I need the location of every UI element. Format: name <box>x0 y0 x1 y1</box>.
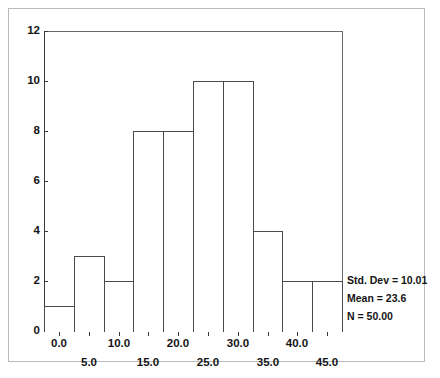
x-axis-tick <box>327 332 328 336</box>
y-axis-tick <box>44 131 48 132</box>
x-axis-tick <box>268 332 269 336</box>
mean-text: Mean = 23.6 <box>347 289 433 307</box>
x-axis-label: 5.0 <box>71 357 107 369</box>
histogram-bar <box>223 81 254 332</box>
y-axis-tick <box>44 231 48 232</box>
n-text: N = 50.00 <box>347 307 433 325</box>
axis-top-line <box>44 31 343 32</box>
histogram-bar <box>74 256 105 332</box>
histogram-bar <box>282 281 313 332</box>
y-axis-tick <box>44 31 48 32</box>
x-axis-label: 0.0 <box>41 338 77 350</box>
histogram-bar <box>44 306 75 332</box>
std-dev-text: Std. Dev = 10.01 <box>347 271 433 289</box>
x-axis-label: 20.0 <box>160 338 196 350</box>
histogram-chart: 024681012 0.010.020.030.040.05.015.025.0… <box>9 9 424 361</box>
x-axis-label: 35.0 <box>250 357 286 369</box>
histogram-bar <box>133 131 164 332</box>
x-axis-tick <box>119 332 120 336</box>
x-axis-tick <box>59 332 60 336</box>
x-axis-label: 30.0 <box>220 338 256 350</box>
figure-frame: 024681012 0.010.020.030.040.05.015.025.0… <box>8 8 425 362</box>
histogram-bar <box>312 281 343 332</box>
x-axis-label: 40.0 <box>279 338 315 350</box>
y-axis-tick <box>44 81 48 82</box>
y-axis-label: 12 <box>15 25 40 37</box>
x-axis-tick <box>148 332 149 336</box>
x-axis-label: 15.0 <box>130 357 166 369</box>
histogram-bar <box>104 281 134 332</box>
y-axis-label: 10 <box>15 75 40 87</box>
y-axis-label: 6 <box>15 175 40 187</box>
y-axis-label: 4 <box>15 225 40 237</box>
x-axis-tick <box>238 332 239 336</box>
x-axis-tick <box>297 332 298 336</box>
x-axis-tick <box>208 332 209 336</box>
y-axis-label: 0 <box>15 325 40 337</box>
histogram-bar <box>253 231 283 332</box>
y-axis-label: 2 <box>15 275 40 287</box>
y-axis-tick <box>44 281 48 282</box>
statistics-annotation: Std. Dev = 10.01 Mean = 23.6 N = 50.00 <box>347 271 433 325</box>
histogram-bar <box>163 131 194 332</box>
x-axis-label: 45.0 <box>309 357 345 369</box>
x-axis-label: 25.0 <box>190 357 226 369</box>
x-axis-label: 10.0 <box>101 338 137 350</box>
x-axis-tick <box>178 332 179 336</box>
y-axis-label: 8 <box>15 125 40 137</box>
histogram-bar <box>193 81 224 332</box>
x-axis-tick <box>89 332 90 336</box>
y-axis-tick <box>44 181 48 182</box>
